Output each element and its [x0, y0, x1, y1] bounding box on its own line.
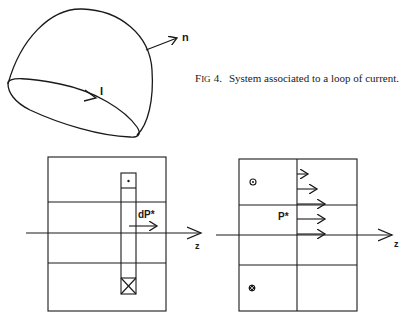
current-out-dot-icon	[127, 180, 129, 182]
current-loop	[8, 79, 139, 137]
caption-prefix-rest: IG	[201, 74, 211, 84]
surface-dome	[8, 9, 152, 135]
left-axis-label: z	[195, 241, 200, 251]
circled-cross-icon	[249, 285, 255, 291]
caption-number: 4.	[214, 72, 223, 84]
left-moment-label: dP*	[138, 209, 155, 220]
current-in-cross-icon	[121, 278, 136, 294]
circled-dot-icon	[250, 179, 256, 185]
right-panel: P* z	[216, 159, 399, 311]
right-axis-label: z	[394, 239, 399, 249]
caption-line: FIG4.System associated to a loop of curr…	[195, 72, 399, 84]
left-panel-frame	[48, 157, 166, 311]
figure-caption: FIG4.System associated to a loop of curr…	[195, 72, 399, 84]
caption-text: System associated to a loop of current.	[229, 72, 399, 84]
left-panel: dP* z	[26, 157, 201, 311]
right-moment-label: P*	[278, 211, 289, 222]
current-loop-surface: n I	[8, 9, 189, 137]
current-label: I	[100, 85, 103, 97]
normal-label: n	[182, 31, 189, 43]
figure-canvas: n I FIG4.System associated to a loop of …	[0, 0, 420, 317]
normal-vector-arrow-icon	[146, 38, 177, 50]
